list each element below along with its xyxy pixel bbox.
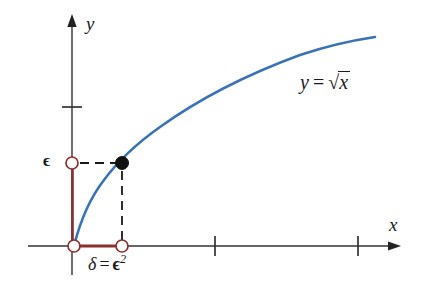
dashed-guides-group bbox=[80, 163, 122, 241]
y-axis-label: y bbox=[86, 14, 94, 33]
axes-group bbox=[28, 14, 401, 275]
x-axis-label: x bbox=[389, 215, 397, 234]
curve-label-equals: = bbox=[313, 71, 324, 93]
radicand: x bbox=[338, 71, 350, 92]
curve-equation-label: y=√x bbox=[300, 70, 350, 92]
origin-open-circle bbox=[68, 240, 80, 252]
x-axis-arrowhead bbox=[388, 242, 401, 251]
figure-container: y x ϵ y=√x δ=ϵ2 bbox=[0, 0, 425, 292]
curve-point-filled-dot bbox=[116, 157, 129, 170]
sqrt-group: √x bbox=[328, 70, 350, 92]
diagram-svg bbox=[0, 0, 425, 292]
y-axis-arrowhead bbox=[67, 14, 76, 27]
delta-label-rhs-base: ϵ bbox=[113, 254, 121, 274]
delta-label-rhs-exponent: 2 bbox=[120, 252, 126, 266]
epsilon-open-circle bbox=[66, 157, 78, 169]
epsilon-label: ϵ bbox=[43, 152, 50, 169]
highlight-segments-group bbox=[73, 163, 123, 246]
sqrt-curve bbox=[74, 37, 375, 246]
delta-open-circle bbox=[116, 240, 128, 252]
delta-equation-label: δ=ϵ2 bbox=[88, 253, 126, 273]
delta-label-equals: = bbox=[99, 254, 109, 274]
curve-label-lhs: y bbox=[300, 71, 309, 93]
delta-label-lhs: δ bbox=[88, 254, 96, 274]
